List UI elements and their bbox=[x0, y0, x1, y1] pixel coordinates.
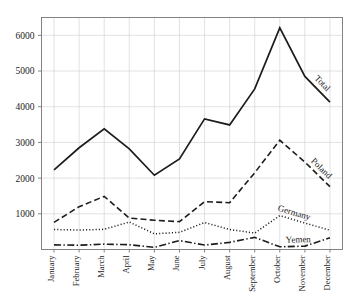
y-tick-label: 5000 bbox=[16, 66, 35, 76]
y-tick-label: 2000 bbox=[16, 174, 35, 184]
x-tick-label-july: July bbox=[197, 255, 207, 270]
x-tick-label-september: September bbox=[247, 255, 257, 292]
y-tick-label: 4000 bbox=[16, 102, 35, 112]
x-tick-label-february: February bbox=[71, 255, 81, 286]
x-tick-label-october: October bbox=[272, 255, 282, 283]
x-tick-label-november: November bbox=[297, 255, 307, 291]
y-tick-label: 6000 bbox=[16, 31, 35, 41]
x-tick-label-may: May bbox=[146, 255, 156, 271]
x-tick-label-march: March bbox=[96, 255, 106, 278]
x-tick-label-april: April bbox=[121, 255, 131, 274]
x-tick-label-january: January bbox=[46, 255, 56, 282]
y-tick-label: 1000 bbox=[16, 209, 35, 219]
y-tick-label: 3000 bbox=[16, 138, 35, 148]
x-tick-label-december: December bbox=[322, 255, 332, 290]
chart-background bbox=[0, 0, 351, 299]
line-chart-figure: 100020003000400050006000 JanuaryFebruary… bbox=[0, 0, 351, 299]
x-tick-label-august: August bbox=[222, 255, 232, 280]
x-tick-label-june: June bbox=[171, 255, 181, 271]
chart-canvas: 100020003000400050006000 JanuaryFebruary… bbox=[0, 0, 351, 299]
series-label-yemen: Yemen bbox=[286, 234, 312, 245]
